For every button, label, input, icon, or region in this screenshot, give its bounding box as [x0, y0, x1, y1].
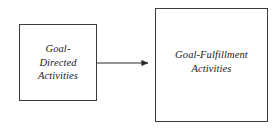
- node-goal-fulfillment-label: Goal-Fulfillment Activities: [175, 48, 248, 75]
- node-goal-directed[interactable]: Goal- Directed Activities: [19, 24, 97, 101]
- diagram-canvas: Goal- Directed Activities Goal-Fulfillme…: [0, 0, 280, 130]
- node-goal-fulfillment[interactable]: Goal-Fulfillment Activities: [155, 8, 268, 122]
- node-goal-directed-label: Goal- Directed Activities: [38, 42, 78, 82]
